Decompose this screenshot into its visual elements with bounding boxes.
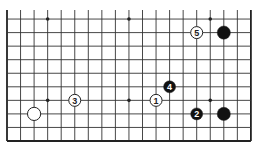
move-number: 2 <box>194 109 199 119</box>
black-stone <box>217 26 230 39</box>
move-number: 5 <box>194 28 199 38</box>
black-stone-2: 2 <box>191 108 203 120</box>
move-number: 1 <box>154 96 159 106</box>
white-stone-5: 5 <box>191 27 203 39</box>
go-board: 12345 <box>0 0 256 154</box>
move-number: 3 <box>72 96 77 106</box>
star-point <box>127 17 131 21</box>
white-stone-3: 3 <box>69 94 81 106</box>
board-grid <box>7 10 251 141</box>
star-point <box>127 99 131 103</box>
star-point <box>208 99 212 103</box>
white-stone <box>27 107 40 120</box>
white-stone-1: 1 <box>150 94 162 106</box>
black-stone <box>217 107 230 120</box>
star-point <box>208 17 212 21</box>
move-number: 4 <box>167 82 172 92</box>
star-point <box>46 17 50 21</box>
black-stone-4: 4 <box>164 81 176 93</box>
star-point <box>46 99 50 103</box>
